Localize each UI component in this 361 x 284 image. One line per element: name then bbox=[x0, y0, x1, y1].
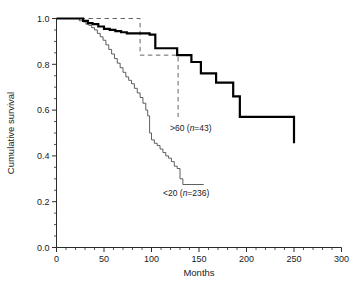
survival-chart-figure: 0501001502002503000.00.20.40.60.81.0<20 … bbox=[0, 0, 361, 284]
x-axis-tick-label: 0 bbox=[54, 254, 59, 264]
x-axis-tick-label: 250 bbox=[286, 254, 301, 264]
series-line--60-n-43- bbox=[57, 19, 179, 117]
y-axis-tick-label: 0.2 bbox=[37, 197, 50, 207]
x-axis-title: Months bbox=[183, 267, 214, 278]
y-axis-tick-label: 0.8 bbox=[37, 60, 50, 70]
x-axis-tick-label: 100 bbox=[144, 254, 159, 264]
x-axis-tick-label: 150 bbox=[191, 254, 206, 264]
series-line--20-n-236- bbox=[57, 19, 204, 185]
series-annotation-gt60: >60 (n=43) bbox=[170, 123, 212, 133]
x-axis-tick-label: 300 bbox=[334, 254, 349, 264]
y-axis-tick-label: 0.6 bbox=[37, 105, 50, 115]
x-axis-tick-label: 200 bbox=[239, 254, 254, 264]
y-axis-title: Cumulative survival bbox=[5, 92, 16, 174]
y-axis-tick-label: 1.0 bbox=[37, 14, 50, 24]
y-axis-tick-label: 0.4 bbox=[37, 151, 50, 161]
y-axis-tick-label: 0.0 bbox=[37, 243, 50, 253]
x-axis-tick-label: 50 bbox=[99, 254, 109, 264]
series-annotation-lt20: <20 (n=236) bbox=[163, 188, 210, 198]
chart-canvas: 0501001502002503000.00.20.40.60.81.0<20 … bbox=[0, 0, 361, 284]
